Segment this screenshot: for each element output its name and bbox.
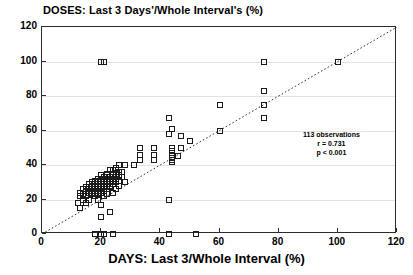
data-point [261,115,267,121]
x-axis-tick-label: 60 [199,236,239,247]
statistics-annotation: 113 observations r = 0.731 p < 0.001 [303,130,360,157]
data-point [131,162,137,168]
y-axis-tick-mark [42,130,46,131]
x-axis-tick-mark [337,228,338,232]
x-axis-tick-label: 20 [80,236,120,247]
data-point [175,153,181,159]
x-axis-tick-label: 80 [258,236,298,247]
data-point [77,205,83,211]
y-axis-tick-mark [42,61,46,62]
y-axis-tick-label: 20 [0,193,37,204]
data-point [151,145,157,151]
x-axis-label: DAYS: Last 3/Whole Interval (%) [0,251,413,266]
data-point [335,59,341,65]
x-axis-tick-label: 40 [139,236,179,247]
y-axis-tick-label: 80 [0,89,37,100]
y-axis-tick-mark [42,199,46,200]
x-axis-tick-mark [396,228,397,232]
y-axis-tick-label: 100 [0,55,37,66]
data-point [169,159,175,165]
data-point [98,202,104,208]
x-axis-tick-mark [100,228,101,232]
data-point [137,157,143,163]
scatter-plot-figure: DOSES: Last 3 Days'/Whole Interval's (%)… [0,0,413,275]
data-point [98,214,104,220]
chart-title: DOSES: Last 3 Days'/Whole Interval's (%) [43,4,263,16]
data-point [178,133,184,139]
data-point [261,102,267,108]
data-point [217,128,223,134]
data-point [83,200,89,206]
y-axis-tick-mark [42,233,46,234]
y-axis-tick-mark [42,95,46,96]
y-axis-tick-mark [42,164,46,165]
x-axis-tick-mark [41,228,42,232]
x-axis-tick-mark [159,228,160,232]
data-point [166,115,172,121]
data-point [137,145,143,151]
correlation-coefficient: r = 0.731 [303,139,360,148]
x-axis-tick-label: 0 [21,236,61,247]
y-axis-tick-label: 40 [0,158,37,169]
y-axis-tick-label: 60 [0,124,37,135]
data-point [166,197,172,203]
y-axis-tick-label: 120 [0,20,37,31]
data-point [107,209,113,215]
p-value: p < 0.001 [303,148,360,157]
x-axis-tick-label: 100 [317,236,357,247]
data-point [151,157,157,163]
data-point [261,59,267,65]
data-point [261,88,267,94]
x-axis-tick-mark [278,228,279,232]
x-axis-tick-mark [219,228,220,232]
x-axis-tick-label: 120 [376,236,413,247]
observations-count: 113 observations [303,130,360,139]
data-point [166,131,172,137]
data-point [122,162,128,168]
data-point [122,179,128,185]
data-point [178,145,184,151]
data-point [217,102,223,108]
data-point [101,193,107,199]
data-point [110,190,116,196]
y-axis-tick-mark [42,26,46,27]
data-point [101,59,107,65]
data-point [187,138,193,144]
